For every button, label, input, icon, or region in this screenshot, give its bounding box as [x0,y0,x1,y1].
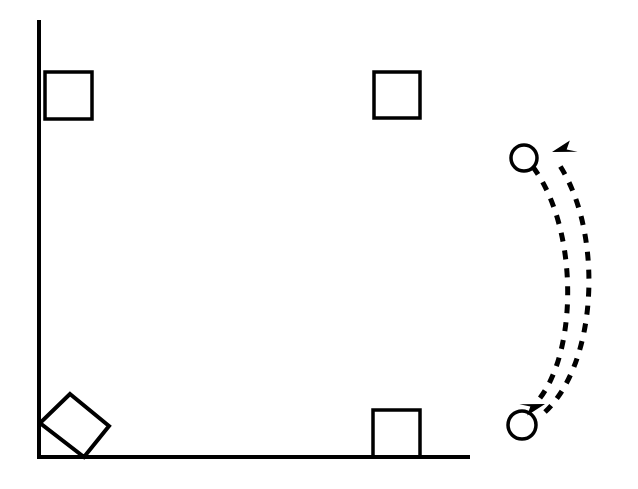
arc-arrow-upward-head [552,136,580,164]
arc-arrow-downward-path [533,167,568,398]
square-bottom-left-rotated [40,394,109,457]
arc-arrow-downward [517,167,568,420]
corner-axes [39,22,468,457]
square-bottom-right [373,410,420,457]
square-group [45,72,420,457]
circle-bottom [508,411,536,439]
circle-group [508,145,537,439]
square-top-right [374,72,420,118]
square-top-left [45,72,92,119]
diagram-canvas [0,0,638,489]
geometry-diagram [0,0,638,489]
